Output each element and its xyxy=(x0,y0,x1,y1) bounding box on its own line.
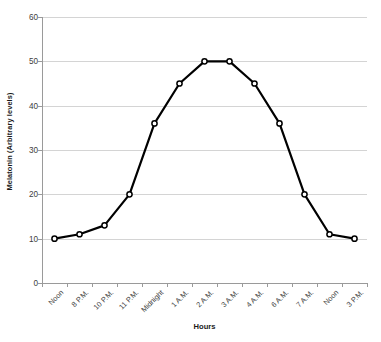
data-point-marker[interactable] xyxy=(77,232,82,237)
x-tickmark xyxy=(242,283,243,287)
y-tick-label-10: 10 xyxy=(29,234,38,243)
data-point-marker[interactable] xyxy=(202,59,207,64)
x-tick-label-4: Midnight xyxy=(139,288,165,314)
y-tick-label-50: 50 xyxy=(29,57,38,66)
x-tick-label-8: 4 A.M. xyxy=(244,288,265,309)
data-point-marker[interactable] xyxy=(177,81,182,86)
x-tick-label-5: 1 A.M. xyxy=(169,288,190,309)
data-point-marker[interactable] xyxy=(252,81,257,86)
x-tickmark xyxy=(167,283,168,287)
x-tickmark xyxy=(42,283,43,287)
data-point-marker[interactable] xyxy=(152,121,157,126)
data-point-marker[interactable] xyxy=(127,192,132,197)
melatonin-series xyxy=(42,17,367,283)
y-tick-label-40: 40 xyxy=(29,101,38,110)
x-tickmark xyxy=(142,283,143,287)
x-tickmark xyxy=(117,283,118,287)
data-point-marker[interactable] xyxy=(52,236,57,241)
x-tick-label-10: 7 A.M. xyxy=(294,288,315,309)
data-point-marker[interactable] xyxy=(277,121,282,126)
x-tickmark xyxy=(267,283,268,287)
melatonin-line-chart: Melatonin (Arbitrary levels) 01020304050… xyxy=(0,0,381,342)
x-tick-label-6: 2 A.M. xyxy=(194,288,215,309)
x-axis-line xyxy=(42,283,367,284)
x-tick-label-1: 8 P.M. xyxy=(69,288,90,309)
x-tick-label-7: 3 A.M. xyxy=(219,288,240,309)
x-tick-label-11: Noon xyxy=(321,288,340,307)
x-tickmark xyxy=(342,283,343,287)
x-tickmark xyxy=(67,283,68,287)
x-tick-label-2: 10 P.M. xyxy=(91,288,115,312)
data-point-marker[interactable] xyxy=(102,223,107,228)
y-tick-label-60: 60 xyxy=(29,13,38,22)
series-line xyxy=(55,61,355,238)
x-tickmark xyxy=(367,283,368,287)
x-axis-title: Hours xyxy=(42,322,367,331)
y-tick-label-20: 20 xyxy=(29,190,38,199)
x-tickmark xyxy=(217,283,218,287)
x-tick-label-0: Noon xyxy=(46,288,65,307)
data-point-marker[interactable] xyxy=(302,192,307,197)
x-tick-label-3: 11 P.M. xyxy=(117,288,140,311)
x-tick-label-12: 3 P.M. xyxy=(344,288,365,309)
x-tickmark xyxy=(192,283,193,287)
data-point-marker[interactable] xyxy=(352,236,357,241)
x-tickmark xyxy=(92,283,93,287)
data-point-marker[interactable] xyxy=(227,59,232,64)
y-axis-title-text: Melatonin (Arbitrary levels) xyxy=(5,92,14,190)
x-tick-label-9: 6 A.M. xyxy=(269,288,290,309)
x-tickmark xyxy=(292,283,293,287)
y-tick-label-30: 30 xyxy=(29,146,38,155)
y-axis-title: Melatonin (Arbitrary levels) xyxy=(0,0,18,283)
x-tickmark xyxy=(317,283,318,287)
data-point-marker[interactable] xyxy=(327,232,332,237)
